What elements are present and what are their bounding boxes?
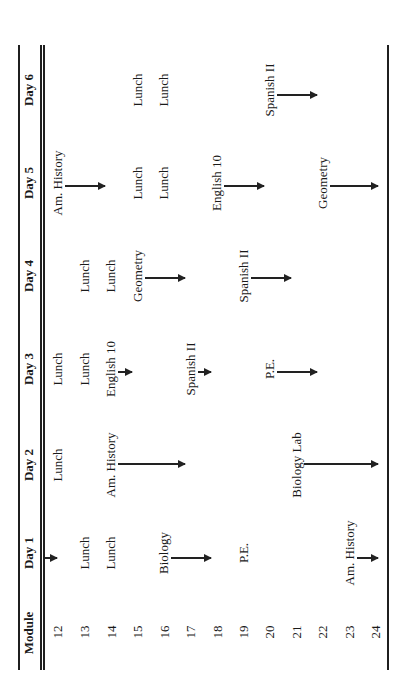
schedule-entry: Spanish II [262,63,278,116]
module-number: 20 [262,626,278,639]
schedule-entry: Biology Lab [289,432,305,497]
schedule-entry: Am. History [50,151,66,216]
module-number: 16 [157,626,173,639]
schedule-entry: Am. History [342,521,358,586]
continuation-arrow-icon [357,557,378,559]
schedule-entry: Spanish II [183,342,199,395]
module-number: 21 [289,626,305,639]
header-day-2: Day 2 [19,449,39,481]
module-number: 13 [77,626,93,639]
schedule-entry: Am. History [103,433,119,498]
schedule-entry: Biology [156,532,172,574]
module-number: 17 [183,626,199,639]
header-day-1: Day 1 [19,537,39,569]
continuation-arrow-icon [251,277,291,279]
schedule-entry: Lunch [103,536,119,569]
schedule-entry: Geometry [315,157,331,209]
module-schedule-table: Module Day 1 Day 2 Day 3 Day 4 Day 5 Day… [18,45,390,670]
schedule-entry: Lunch [130,73,146,106]
header-day-5: Day 5 [19,167,39,199]
continuation-arrow-icon [277,94,317,96]
module-number: 14 [104,626,120,639]
header-module: Module [19,612,39,655]
continuation-arrow-icon [171,557,211,559]
table-bottom-rule [387,45,389,670]
continuation-arrow-icon [198,371,212,373]
continuation-arrow-icon [330,185,378,187]
continuation-arrow-icon [118,371,132,373]
schedule-entry: Lunch [50,352,66,385]
header-day-6: Day 6 [19,74,39,106]
continuation-arrow-icon [118,463,185,465]
schedule-entry: Lunch [77,352,93,385]
header-day-4: Day 4 [19,260,39,292]
continuation-arrow-icon [304,463,378,465]
schedule-entry: Lunch [77,259,93,292]
schedule-entry: P.E. [236,543,252,563]
module-number: 12 [50,626,66,639]
schedule-entry: Lunch [77,536,93,569]
schedule-entry: Geometry [130,250,146,302]
continuation-arrow-icon [65,185,105,187]
module-number: 15 [130,626,146,639]
schedule-entry: P.E. [262,359,278,379]
schedule-entry: Spanish II [236,249,252,302]
module-number: 19 [236,626,252,639]
continuation-arrow-icon [45,557,57,559]
schedule-entry: Lunch [156,166,172,199]
header-double-rule-2 [43,45,45,670]
module-number: 23 [342,626,358,639]
schedule-entry: English 10 [103,341,119,397]
module-number: 22 [315,626,331,639]
module-number: 18 [210,626,226,639]
module-number: 24 [368,626,384,639]
schedule-entry: Lunch [50,448,66,481]
header-day-3: Day 3 [19,353,39,385]
schedule-entry: Lunch [156,73,172,106]
continuation-arrow-icon [277,371,317,373]
schedule-entry: Lunch [103,259,119,292]
schedule-entry: Lunch [130,166,146,199]
schedule-entry: English 10 [209,155,225,211]
header-double-rule-1 [40,45,42,670]
continuation-arrow-icon [224,185,264,187]
continuation-arrow-icon [145,277,185,279]
